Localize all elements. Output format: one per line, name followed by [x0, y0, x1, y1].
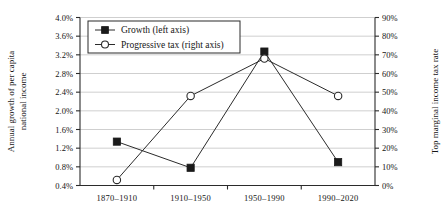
right-tick-label: 90% [382, 13, 398, 23]
right-tick-label: 70% [382, 50, 398, 60]
left-tick-label: 3.2% [55, 50, 73, 60]
legend-label: Progressive tax (right axis) [121, 40, 224, 51]
right-tick-label: 20% [382, 143, 398, 153]
left-tick-label: 1.2% [55, 143, 73, 153]
x-category-label: 1990–2020 [318, 193, 359, 203]
right-axis-title: Top marginal income tax rate [430, 49, 440, 155]
left-tick-label: 2.8% [55, 69, 73, 79]
right-tick-label: 40% [382, 106, 398, 116]
right-tick-label: 10% [382, 162, 398, 172]
left-tick-label: 3.6% [55, 31, 73, 41]
right-tick-label: 80% [382, 31, 398, 41]
legend-marker-circle [102, 41, 109, 48]
data-point-circle [113, 176, 120, 183]
data-point-circle [261, 55, 268, 62]
left-axis-title-line-1: Annual growth of per capita [6, 51, 16, 152]
left-tick-label: 0.8% [55, 162, 73, 172]
left-axis-title-line-2: national income [18, 73, 28, 131]
left-tick-label: 2.0% [55, 106, 73, 116]
data-point-square [187, 164, 194, 171]
left-tick-label: 0.4% [55, 181, 73, 191]
legend-label: Growth (left axis) [121, 25, 189, 36]
data-point-square [113, 138, 120, 145]
left-tick-label: 1.6% [55, 125, 73, 135]
chart-container: 0.4%0.8%1.2%1.6%2.0%2.4%2.8%3.2%3.6%4.0%… [0, 0, 447, 211]
x-category-label: 1950–1990 [244, 193, 285, 203]
right-tick-label: 60% [382, 69, 398, 79]
left-tick-label: 2.4% [55, 87, 73, 97]
right-tick-label: 30% [382, 125, 398, 135]
right-tick-label: 50% [382, 87, 398, 97]
legend-marker-square [102, 27, 109, 34]
data-point-square [335, 159, 342, 166]
data-point-square [261, 48, 268, 55]
x-category-label: 1870–1910 [96, 193, 137, 203]
data-point-circle [334, 92, 341, 99]
left-tick-label: 4.0% [55, 13, 73, 23]
line-chart: 0.4%0.8%1.2%1.6%2.0%2.4%2.8%3.2%3.6%4.0%… [0, 0, 447, 211]
legend: Growth (left axis)Progressive tax (right… [88, 21, 240, 53]
right-tick-label: 0% [382, 181, 393, 191]
x-category-label: 1910–1950 [170, 193, 211, 203]
data-point-circle [187, 92, 194, 99]
